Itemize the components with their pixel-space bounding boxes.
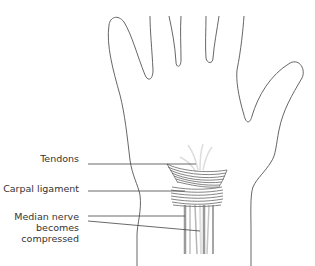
hand-outline	[108, 16, 303, 266]
leader-median-2	[88, 221, 200, 231]
carpal-ligament	[171, 187, 223, 207]
label-median-line2: becomes	[0, 222, 79, 233]
tendon-bundle	[185, 205, 213, 254]
label-carpal-ligament: Carpal ligament	[3, 183, 79, 194]
label-median-line1: Median nerve	[0, 211, 79, 222]
label-median-line3: compressed	[0, 233, 79, 244]
label-median-nerve: Median nerve becomes compressed	[0, 211, 79, 244]
palm-tendons	[180, 144, 212, 172]
label-tendons: Tendons	[40, 153, 79, 164]
